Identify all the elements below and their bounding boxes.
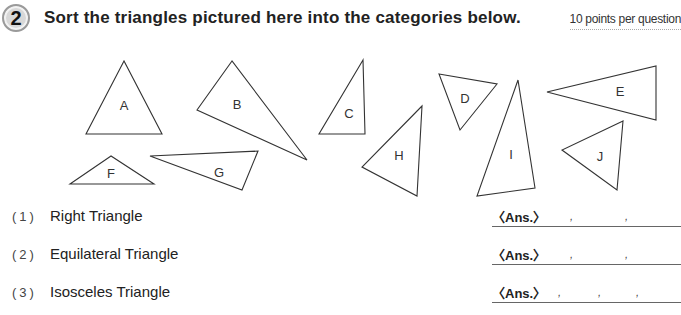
triangle-label: D — [460, 91, 469, 106]
triangle-c: C — [319, 60, 365, 134]
triangle-label: B — [233, 97, 242, 112]
question-number-2: (2) — [12, 247, 37, 262]
triangle-outline — [362, 106, 422, 196]
question-number-1: (1) — [12, 209, 37, 224]
answer-field-2[interactable]: 〈Ans.〉 , , — [492, 244, 681, 265]
triangle-label: C — [344, 106, 353, 121]
triangle-f: F — [70, 156, 154, 184]
answer-tag: 〈Ans.〉 — [492, 207, 546, 226]
triangle-label: A — [120, 98, 129, 113]
comma-separator: , — [570, 248, 573, 260]
triangle-label: G — [214, 165, 224, 180]
triangle-label: I — [509, 147, 513, 162]
triangle-outline — [319, 60, 365, 134]
comma-separator: , — [625, 210, 628, 222]
triangle-label: F — [107, 166, 115, 181]
answer-field-3[interactable]: 〈Ans.〉 , , , — [492, 282, 681, 303]
triangle-e: E — [547, 66, 656, 120]
question-row-1: (1) Right Triangle 〈Ans.〉 , , — [0, 206, 681, 230]
question-row-2: (2) Equilateral Triangle 〈Ans.〉 , , — [0, 244, 681, 268]
triangle-outline — [562, 121, 623, 190]
triangle-a: A — [86, 61, 162, 134]
triangle-outline — [197, 61, 307, 160]
triangle-outline — [150, 151, 258, 190]
comma-separator: , — [570, 210, 573, 222]
triangle-label: J — [597, 149, 604, 164]
question-label-equilateral-triangle: Equilateral Triangle — [50, 245, 178, 262]
triangle-g: G — [150, 151, 258, 190]
triangle-label: E — [616, 84, 625, 99]
triangle-label: H — [394, 148, 403, 163]
triangle-d: D — [439, 74, 497, 130]
question-label-right-triangle: Right Triangle — [50, 207, 143, 224]
triangle-h: H — [362, 106, 422, 196]
question-number-3: (3) — [12, 285, 37, 300]
triangle-outline — [547, 66, 656, 120]
triangle-j: J — [562, 121, 623, 190]
question-row-3: (3) Isosceles Triangle 〈Ans.〉 , , , — [0, 282, 681, 306]
comma-separator: , — [625, 248, 628, 260]
answer-field-1[interactable]: 〈Ans.〉 , , — [492, 206, 681, 227]
comma-separator: , — [598, 286, 601, 298]
triangle-figure: ABCDEFGHIJ — [0, 0, 681, 205]
question-label-isosceles-triangle: Isosceles Triangle — [50, 283, 170, 300]
comma-separator: , — [558, 286, 561, 298]
triangle-b: B — [197, 61, 307, 160]
comma-separator: , — [636, 286, 639, 298]
answer-tag: 〈Ans.〉 — [492, 283, 546, 302]
answer-tag: 〈Ans.〉 — [492, 245, 546, 264]
